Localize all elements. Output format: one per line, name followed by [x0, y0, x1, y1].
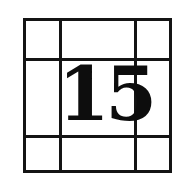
center-number: 15 [58, 56, 138, 132]
